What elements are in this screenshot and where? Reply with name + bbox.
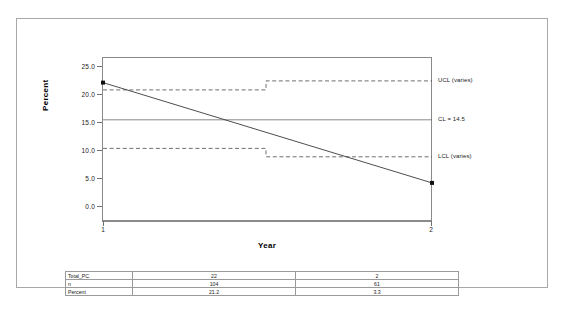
data-point-year-1: [101, 81, 105, 85]
table-row-label-n: n: [66, 280, 133, 288]
table-row: n 104 61: [66, 280, 459, 288]
ucl-label: UCL (varies): [438, 77, 473, 84]
table-cell-n-year-2: 61: [296, 280, 459, 288]
lcl-label: LCL (varies): [438, 153, 472, 160]
table-row-label-percent: Percent: [66, 288, 133, 296]
table-row: Percent 21.2 3.3: [66, 288, 459, 296]
cl-label: CL = 14.5: [438, 116, 465, 123]
table-row-label-total-pc: Total_PC.: [66, 272, 133, 280]
table-row: Total_PC. 22 2: [66, 272, 459, 280]
page-frame: 25.0 20.0 15.0 10.0 5.0 0.0 Percent 1 2 …: [16, 18, 548, 288]
table-cell-percent-year-1: 21.2: [133, 288, 296, 296]
table-cell-total-pc-year-2: 2: [296, 272, 459, 280]
lcl-line: [103, 148, 432, 156]
chart-data-table: Total_PC. 22 2 n 104 61 Percent 21.2 3.3: [65, 271, 459, 296]
percent-series-line: [103, 83, 432, 183]
table-cell-percent-year-2: 3.3: [296, 288, 459, 296]
ucl-line: [103, 81, 432, 90]
table-cell-total-pc-year-1: 22: [133, 272, 296, 280]
data-point-year-2: [430, 181, 434, 185]
control-chart-figure: 25.0 20.0 15.0 10.0 5.0 0.0 Percent 1 2 …: [17, 19, 549, 289]
table-cell-n-year-1: 104: [133, 280, 296, 288]
